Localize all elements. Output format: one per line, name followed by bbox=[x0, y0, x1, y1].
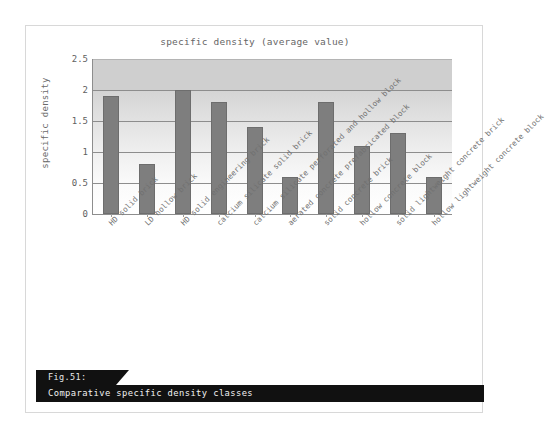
caption-tab-slant-icon bbox=[116, 370, 129, 385]
y-axis-title: specific density bbox=[40, 68, 50, 178]
y-axis-tick-label: 1 bbox=[83, 147, 88, 157]
caption-tab: Fig.51: bbox=[36, 370, 116, 385]
chart-title: specific density (average value) bbox=[26, 36, 484, 47]
y-axis-tick-label: 0 bbox=[83, 209, 88, 219]
bar bbox=[103, 96, 119, 214]
y-axis-tick-label: 2 bbox=[83, 85, 88, 95]
caption-figure-number: Fig.51: bbox=[48, 372, 87, 382]
y-axis-tick-label: 1.5 bbox=[72, 116, 88, 126]
caption-bar: Comparative specific density classes bbox=[36, 385, 484, 402]
y-axis-tick-label: 2.5 bbox=[72, 54, 88, 64]
chart-region: specific density (average value) specifi… bbox=[26, 26, 484, 378]
figure-frame: specific density (average value) specifi… bbox=[25, 25, 483, 413]
y-axis-tick-label: 0.5 bbox=[72, 178, 88, 188]
figure-caption: Fig.51: Comparative specific density cla… bbox=[26, 370, 484, 402]
caption-title-text: Comparative specific density classes bbox=[48, 388, 253, 398]
